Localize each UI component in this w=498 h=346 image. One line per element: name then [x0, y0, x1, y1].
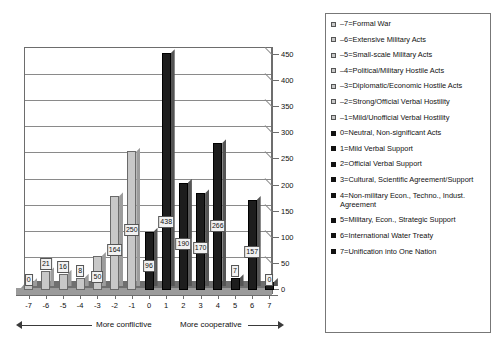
data-label: 164 [107, 244, 123, 256]
y-axis-tick [272, 263, 279, 264]
y-axis-tick-label: 150 [281, 206, 294, 215]
x-axis-tick [235, 295, 236, 299]
y-axis-tick-label: 250 [281, 154, 294, 163]
legend: –7=Formal War–6=Extensive Military Acts–… [325, 13, 491, 333]
data-label: 50 [91, 271, 103, 283]
legend-item-neg1[interactable]: –1=Mild/Unofficial Verbal Hostility [331, 113, 486, 122]
gridline [25, 152, 271, 153]
legend-swatch-icon [331, 68, 336, 73]
right-arrow-line [248, 325, 278, 326]
legend-item-3[interactable]: 3=Cultural, Scientific Agreement/Support [331, 175, 486, 184]
legend-item-6[interactable]: 6=International Water Treaty [331, 231, 486, 240]
bar-neg5 [59, 274, 68, 290]
data-label: 170 [193, 242, 209, 254]
chart-figure: 050100150200250300350400450 -7-6-5-4-3-2… [0, 0, 498, 346]
legend-swatch-icon [331, 218, 336, 223]
legend-item-neg2[interactable]: –2=Strong/Official Verbal Hostility [331, 97, 486, 106]
y-axis-tick-label: 350 [281, 102, 294, 111]
bar-face [179, 183, 188, 290]
legend-swatch-icon [331, 37, 336, 42]
x-axis-tick [63, 295, 64, 299]
bar-face [59, 274, 68, 290]
x-axis-tick-label: -5 [60, 301, 67, 310]
x-axis-tick-label: 1 [164, 301, 168, 310]
x-axis-tick-label: 4 [216, 301, 220, 310]
x-axis-tick-label: -3 [94, 301, 101, 310]
x-axis-tick-label: 0 [147, 301, 151, 310]
x-axis-tick-label: -4 [77, 301, 84, 310]
legend-item-7[interactable]: 7=Unification into One Nation [331, 247, 486, 256]
x-axis-tick [201, 295, 202, 299]
bar-side-3d [257, 196, 261, 286]
legend-item-1[interactable]: 1=Mild Verbal Support [331, 144, 486, 153]
y-axis-tick-label: 0 [281, 285, 285, 294]
legend-item-label: 6=International Water Treaty [340, 231, 433, 240]
y-axis-tick [272, 80, 279, 81]
y-axis-tick-label: 400 [281, 76, 294, 85]
bar-side-3d [171, 49, 175, 286]
data-label: 190 [176, 238, 192, 250]
legend-item-label: 2=Official Verbal Support [340, 159, 422, 168]
bar-neg4 [76, 278, 85, 290]
legend-item-neg7[interactable]: –7=Formal War [331, 19, 486, 28]
bar-neg1 [127, 151, 136, 290]
y-axis-tick [272, 132, 279, 133]
plot-area: 050100150200250300350400450 -7-6-5-4-3-2… [0, 0, 300, 346]
bar-face [76, 278, 85, 290]
y-axis-tick [272, 185, 279, 186]
x-axis-tick [46, 295, 47, 299]
legend-item-2[interactable]: 2=Official Verbal Support [331, 159, 486, 168]
y-axis-tick [272, 54, 279, 55]
bar-side-3d [119, 192, 123, 286]
legend-item-4[interactable]: 4=Non-military Econ., Techno., Indust. A… [331, 191, 486, 209]
x-axis-tick [252, 295, 253, 299]
x-axis-tick [115, 295, 116, 299]
legend-item-5[interactable]: 5=Military, Econ., Strategic Support [331, 215, 486, 224]
x-axis-tick-label: -7 [25, 301, 32, 310]
x-axis-tick-label: 3 [199, 301, 203, 310]
y-axis-tick-label: 450 [281, 50, 294, 59]
right-arrow-head-icon [278, 321, 284, 329]
data-label: 438 [158, 216, 174, 228]
x-axis-tick [80, 295, 81, 299]
legend-item-label: –3=Diplomatic/Economic Hostile Acts [340, 81, 462, 90]
legend-item-label: –2=Strong/Official Verbal Hostility [340, 97, 450, 106]
x-axis-tick-label: -1 [128, 301, 135, 310]
bar-neg6 [41, 271, 50, 290]
bar-side-3d [136, 147, 140, 286]
label-more-cooperative: More cooperative [180, 320, 242, 329]
x-axis-line [16, 295, 278, 296]
legend-item-neg6[interactable]: –6=Extensive Military Acts [331, 35, 486, 44]
label-more-conflictive: More conflictive [96, 320, 152, 329]
legend-swatch-icon [331, 193, 336, 198]
bar-face [127, 151, 136, 290]
legend-swatch-icon [331, 146, 336, 151]
direction-annotations: More conflictive More cooperative [16, 318, 284, 334]
y-axis-tick [272, 237, 279, 238]
legend-swatch-icon [331, 99, 336, 104]
legend-item-neg4[interactable]: –4=Political/Military Hostile Acts [331, 66, 486, 75]
legend-item-neg3[interactable]: –3=Diplomatic/Economic Hostile Acts [331, 81, 486, 90]
x-axis-tick [269, 295, 270, 299]
y-axis-tick-label: 200 [281, 180, 294, 189]
y-axis-tick [272, 211, 279, 212]
x-axis-tick-label: 2 [181, 301, 185, 310]
legend-swatch-icon [331, 131, 336, 136]
data-label: 0 [25, 274, 33, 286]
bar-4 [213, 143, 222, 290]
legend-swatch-icon [331, 22, 336, 27]
legend-item-neg5[interactable]: –5=Small-scale Military Acts [331, 50, 486, 59]
legend-item-0[interactable]: 0=Neutral, Non-significant Acts [331, 128, 486, 137]
legend-item-label: –4=Political/Military Hostile Acts [340, 66, 444, 75]
data-label: 250 [124, 224, 140, 236]
x-axis-tick-label: -6 [42, 301, 49, 310]
bar-side-3d [188, 179, 192, 286]
x-axis-tick [166, 295, 167, 299]
bar-face [231, 278, 240, 290]
legend-swatch-icon [331, 53, 336, 58]
data-label: 266 [210, 220, 226, 232]
data-label: 157 [244, 246, 260, 258]
y-axis-tick [272, 106, 279, 107]
data-label: 8 [76, 265, 84, 277]
y-axis-tick-label: 100 [281, 232, 294, 241]
